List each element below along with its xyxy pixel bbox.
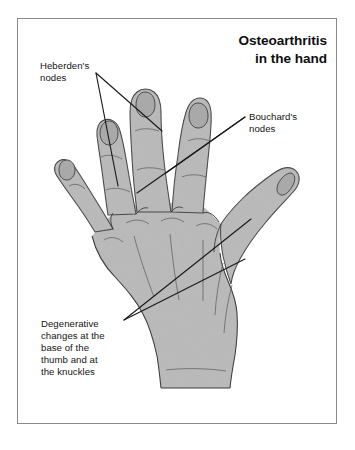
figure-title: Osteoarthritis in the hand [239, 32, 327, 67]
label-heberden-nodes: Heberden's nodes [40, 60, 89, 84]
label-degenerative-changes: Degenerative changes at the base of the … [41, 318, 105, 378]
label-bouchard-nodes: Bouchard's nodes [249, 111, 297, 135]
figure-osteoarthritis-hand: Osteoarthritis in the hand Heberden's no… [0, 0, 355, 450]
